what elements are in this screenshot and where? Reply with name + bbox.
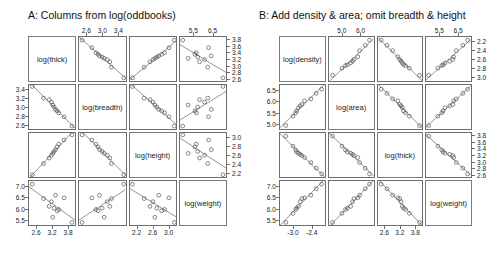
axis-tick-mark [25, 98, 28, 99]
axis-tick-mark [52, 226, 53, 229]
splom-scatter-cell [328, 132, 375, 178]
splom-diagonal-cell: log(thick) [377, 132, 424, 178]
axis-tick-mark [227, 164, 230, 165]
axis-tick-label: 2.6 [31, 229, 40, 236]
axis-tick-label: 7.0 [259, 182, 276, 189]
axis-tick-label: 5.5 [8, 217, 25, 224]
splom-scatter-cell [129, 180, 177, 226]
splom-scatter-cell [328, 180, 375, 226]
axis-tick-label: 5.5 [259, 217, 276, 224]
axis-tick-mark [439, 33, 440, 36]
splom-diagonal-cell: log(density) [279, 36, 326, 82]
splom-variable-label: log(thick) [378, 151, 423, 160]
axis-tick-mark [227, 79, 230, 80]
axis-tick-mark [137, 226, 138, 229]
splom-scatter-cell [28, 84, 76, 130]
scatterplot-matrix-b: log(density)log(area)log(thick)log(weigh… [279, 36, 472, 226]
axis-tick-label: 3.0 [232, 133, 241, 140]
axis-tick-label: 5.0 [259, 121, 276, 128]
axis-tick-mark [276, 186, 279, 187]
axis-tick-mark [293, 226, 294, 229]
axis-tick-mark [276, 101, 279, 102]
axis-tick-label: 3.0 [477, 74, 486, 81]
splom-diagonal-cell: log(area) [328, 84, 375, 130]
axis-tick-label: 2.6 [8, 122, 25, 129]
axis-tick-mark [276, 209, 279, 210]
axis-tick-label: 2.6 [148, 229, 157, 236]
axis-tick-label: 2.6 [232, 152, 241, 159]
axis-tick-label: 2.8 [8, 113, 25, 120]
axis-tick-mark [227, 155, 230, 156]
splom-diagonal-cell: log(breadth) [78, 84, 126, 130]
panel-b-title: B: Add density & area; omit breadth & he… [259, 9, 502, 21]
axis-tick-mark [25, 107, 28, 108]
axis-tick-label: 2.6 [477, 56, 486, 63]
axis-tick-label: 2.2 [132, 229, 141, 236]
splom-variable-label: log(weight) [180, 199, 226, 208]
splom-scatter-cell [129, 36, 177, 82]
axis-tick-mark [118, 33, 119, 36]
axis-tick-mark [68, 226, 69, 229]
axis-tick-mark [384, 226, 385, 229]
axis-tick-mark [276, 220, 279, 221]
splom-diagonal-cell: log(weight) [179, 180, 227, 226]
axis-tick-mark [227, 137, 230, 138]
axis-tick-mark [472, 148, 475, 149]
axis-tick-mark [342, 33, 343, 36]
splom-diagonal-cell: log(thick) [28, 36, 76, 82]
axis-tick-mark [276, 197, 279, 198]
splom-scatter-cell [78, 180, 126, 226]
scatterplot-matrix-a: log(thick)log(breadth)log(height)log(wei… [28, 36, 227, 226]
axis-tick-mark [36, 226, 37, 229]
axis-tick-mark [227, 39, 230, 40]
splom-diagonal-cell: log(height) [129, 132, 177, 178]
axis-tick-label: 2.6 [380, 229, 389, 236]
axis-tick-mark [472, 142, 475, 143]
axis-tick-label: 3.2 [395, 229, 404, 236]
axis-tick-mark [276, 113, 279, 114]
axis-tick-label: 5.5 [259, 109, 276, 116]
axis-tick-mark [227, 52, 230, 53]
splom-scatter-cell [179, 132, 227, 178]
axis-tick-mark [25, 220, 28, 221]
axis-tick-mark [472, 59, 475, 60]
axis-tick-mark [86, 33, 87, 36]
axis-tick-mark [360, 33, 361, 36]
axis-tick-mark [25, 89, 28, 90]
axis-tick-label: 2.6 [232, 75, 241, 82]
axis-tick-mark [400, 226, 401, 229]
axis-tick-mark [227, 46, 230, 47]
axis-tick-mark [472, 41, 475, 42]
axis-tick-label: 6.5 [259, 194, 276, 201]
splom-variable-label: log(height) [130, 151, 176, 160]
panel-a-title: A: Columns from log(oddbooks) [28, 9, 279, 21]
axis-tick-label: 6.0 [8, 205, 25, 212]
axis-tick-label: 2.8 [232, 142, 241, 149]
splom-scatter-cell [328, 36, 375, 82]
splom-scatter-cell [129, 84, 177, 130]
figure-canvas: A: Columns from log(oddbooks) log(thick)… [0, 0, 502, 272]
axis-tick-label: 2.4 [477, 46, 486, 53]
axis-tick-label: 3.8 [411, 229, 420, 236]
splom-scatter-cell [28, 132, 76, 178]
splom-diagonal-cell: log(weight) [425, 180, 472, 226]
axis-tick-label: 3.2 [48, 229, 57, 236]
axis-tick-label: 3.8 [64, 229, 73, 236]
axis-tick-mark [227, 59, 230, 60]
axis-tick-mark [102, 33, 103, 36]
axis-tick-mark [153, 226, 154, 229]
axis-tick-mark [472, 162, 475, 163]
axis-tick-mark [213, 33, 214, 36]
axis-tick-mark [25, 125, 28, 126]
axis-tick-mark [25, 116, 28, 117]
splom-variable-label: log(density) [280, 55, 325, 64]
axis-tick-mark [227, 146, 230, 147]
splom-variable-label: log(area) [329, 103, 374, 112]
axis-tick-mark [472, 168, 475, 169]
axis-tick-mark [415, 226, 416, 229]
axis-tick-label: 2.8 [477, 65, 486, 72]
splom-scatter-cell [28, 180, 76, 226]
axis-tick-label: 2.2 [232, 170, 241, 177]
splom-scatter-cell [425, 84, 472, 130]
axis-tick-mark [227, 72, 230, 73]
